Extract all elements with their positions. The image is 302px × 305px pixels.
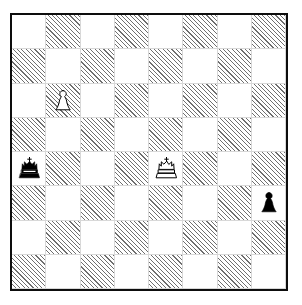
square-c1[interactable]	[81, 255, 115, 289]
square-a5[interactable]	[12, 118, 46, 152]
square-e3[interactable]	[149, 186, 183, 220]
square-h8[interactable]	[252, 15, 286, 49]
square-b5[interactable]	[46, 118, 80, 152]
white-king-icon[interactable]	[154, 157, 179, 181]
square-b3[interactable]	[46, 186, 80, 220]
square-e5[interactable]	[149, 118, 183, 152]
square-h4[interactable]	[252, 152, 286, 186]
square-d6[interactable]	[115, 84, 149, 118]
square-e4[interactable]	[149, 152, 183, 186]
square-c7[interactable]	[81, 49, 115, 83]
square-c4[interactable]	[81, 152, 115, 186]
white-pawn-icon[interactable]	[53, 89, 73, 113]
black-king-icon[interactable]	[17, 157, 42, 181]
square-b8[interactable]	[46, 15, 80, 49]
square-g7[interactable]	[218, 49, 252, 83]
square-d3[interactable]	[115, 186, 149, 220]
square-h5[interactable]	[252, 118, 286, 152]
chess-diagram-container	[0, 0, 302, 305]
square-e6[interactable]	[149, 84, 183, 118]
square-h7[interactable]	[252, 49, 286, 83]
square-g8[interactable]	[218, 15, 252, 49]
square-f5[interactable]	[183, 118, 217, 152]
square-a1[interactable]	[12, 255, 46, 289]
square-e1[interactable]	[149, 255, 183, 289]
square-f4[interactable]	[183, 152, 217, 186]
square-e8[interactable]	[149, 15, 183, 49]
square-h3[interactable]	[252, 186, 286, 220]
square-a2[interactable]	[12, 221, 46, 255]
square-g4[interactable]	[218, 152, 252, 186]
square-f1[interactable]	[183, 255, 217, 289]
square-b1[interactable]	[46, 255, 80, 289]
square-d2[interactable]	[115, 221, 149, 255]
square-b6[interactable]	[46, 84, 80, 118]
square-h2[interactable]	[252, 221, 286, 255]
black-pawn-icon[interactable]	[259, 191, 279, 215]
square-d1[interactable]	[115, 255, 149, 289]
square-e7[interactable]	[149, 49, 183, 83]
square-c6[interactable]	[81, 84, 115, 118]
square-d4[interactable]	[115, 152, 149, 186]
square-f6[interactable]	[183, 84, 217, 118]
square-h1[interactable]	[252, 255, 286, 289]
square-f7[interactable]	[183, 49, 217, 83]
square-f3[interactable]	[183, 186, 217, 220]
square-c5[interactable]	[81, 118, 115, 152]
square-c8[interactable]	[81, 15, 115, 49]
square-g2[interactable]	[218, 221, 252, 255]
square-g6[interactable]	[218, 84, 252, 118]
square-g5[interactable]	[218, 118, 252, 152]
square-a7[interactable]	[12, 49, 46, 83]
square-a3[interactable]	[12, 186, 46, 220]
square-e2[interactable]	[149, 221, 183, 255]
square-b2[interactable]	[46, 221, 80, 255]
square-c2[interactable]	[81, 221, 115, 255]
square-a4[interactable]	[12, 152, 46, 186]
square-a8[interactable]	[12, 15, 46, 49]
square-h6[interactable]	[252, 84, 286, 118]
square-a6[interactable]	[12, 84, 46, 118]
square-d5[interactable]	[115, 118, 149, 152]
square-f8[interactable]	[183, 15, 217, 49]
square-f2[interactable]	[183, 221, 217, 255]
square-g1[interactable]	[218, 255, 252, 289]
chess-board[interactable]	[10, 13, 288, 291]
square-b4[interactable]	[46, 152, 80, 186]
square-d7[interactable]	[115, 49, 149, 83]
square-g3[interactable]	[218, 186, 252, 220]
square-c3[interactable]	[81, 186, 115, 220]
square-b7[interactable]	[46, 49, 80, 83]
square-d8[interactable]	[115, 15, 149, 49]
